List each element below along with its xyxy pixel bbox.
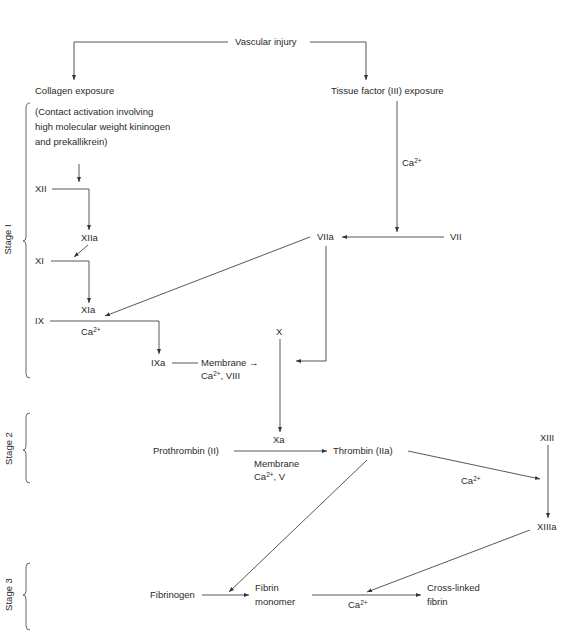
cofactor-ca-fibrin: Ca2+ [348,599,368,611]
stage2-label: Stage 2 [3,432,14,465]
node-xia: XIa [81,304,95,316]
cofactor-ca-xiii: Ca2+ [461,475,481,487]
node-xiiia: XIIIa [537,521,557,533]
arrow-xiia-to-xi [74,245,88,257]
node-fibrinogen: Fibrinogen [150,589,195,601]
node-ixa: IXa [151,357,165,369]
node-cross-linked-line1: Cross-linked [427,582,480,594]
cofactor-membrane-ixa: Membrane → [201,357,259,369]
node-xi: XI [35,255,44,267]
node-xiii: XIII [540,432,554,444]
stage3-label: Stage 3 [3,578,14,611]
arrow-thrombin-to-fibrin [229,460,367,592]
node-xa: Xa [273,434,285,446]
node-x: X [276,326,282,338]
node-viia: VIIa [317,231,334,243]
node-cross-linked-line2: fibrin [427,596,448,608]
node-contact-activation-line1: (Contact activation involving [35,106,153,118]
node-tissue-factor: Tissue factor (III) exposure [331,85,444,97]
stage1-brace [23,103,30,378]
cofactor-ca-tf: Ca2+ [402,157,422,169]
arrow-ix-to-ixa [50,321,159,354]
node-xiia: XIIa [81,232,98,244]
node-contact-activation-line2: high molecular weight kininogen [35,121,170,133]
arrow-injury-to-collagen [74,42,228,80]
node-collagen-exposure: Collagen exposure [35,85,114,97]
node-prothrombin: Prothrombin (II) [153,445,219,457]
arrow-injury-to-tf [310,42,366,80]
node-thrombin: Thrombin (IIa) [333,445,393,457]
cofactor-ca-ix: Ca2+ [81,326,101,338]
arrow-viia-to-x [296,246,326,361]
node-fibrin-monomer-line1: Fibrin [255,582,279,594]
arrow-xii-to-xiia [52,189,89,230]
node-contact-activation-line3: and prekallikrein) [35,136,107,148]
stage2-brace [23,413,30,483]
node-xii: XII [35,183,47,195]
arrow-xi-to-xia [51,261,89,303]
cofactor-ca-v: Ca2+, V [254,471,285,483]
node-vascular-injury: Vascular injury [235,36,297,48]
node-ix: IX [35,315,44,327]
stage3-brace [23,563,30,630]
stage1-label: Stage I [2,224,13,254]
cofactor-ca-viii: Ca2+, VIII [201,370,240,382]
node-fibrin-monomer-line2: monomer [255,596,295,608]
cofactor-membrane-xa: Membrane [254,458,299,470]
node-vii: VII [450,231,462,243]
arrow-viia-to-ix [105,237,310,316]
